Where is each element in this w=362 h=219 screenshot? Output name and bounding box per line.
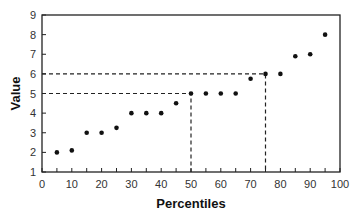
y-tick-label: 6 [30, 68, 36, 80]
data-point [159, 111, 164, 116]
data-point [323, 32, 328, 37]
data-point [70, 148, 75, 153]
data-point [263, 72, 268, 77]
y-tick-label: 9 [30, 9, 36, 21]
data-point [129, 111, 134, 116]
data-point [189, 91, 194, 96]
data-point [308, 52, 313, 57]
x-tick-label: 80 [274, 178, 286, 190]
x-tick-label: 0 [39, 178, 45, 190]
data-point [219, 91, 224, 96]
data-point [84, 130, 89, 135]
x-tick-label: 20 [95, 178, 107, 190]
data-point [204, 91, 209, 96]
x-tick-label: 100 [331, 178, 349, 190]
y-tick-label: 5 [30, 88, 36, 100]
x-tick-label: 40 [155, 178, 167, 190]
y-tick-label: 3 [30, 127, 36, 139]
data-point [233, 91, 238, 96]
data-point [174, 101, 179, 106]
y-tick-label: 2 [30, 146, 36, 158]
percentile-guide-line [42, 74, 266, 172]
x-tick-label: 70 [244, 178, 256, 190]
data-point [144, 111, 149, 116]
x-axis-title: Percentiles [156, 196, 225, 211]
x-tick-label: 30 [125, 178, 137, 190]
y-tick-label: 1 [30, 166, 36, 178]
data-point [278, 72, 283, 77]
x-tick-label: 60 [215, 178, 227, 190]
data-point [114, 126, 119, 131]
scatter-chart: 0102030405060708090100123456789Percentil… [0, 0, 362, 219]
y-tick-label: 4 [30, 107, 36, 119]
data-point [99, 130, 104, 135]
data-point [248, 76, 253, 81]
x-tick-label: 50 [185, 178, 197, 190]
x-tick-label: 10 [66, 178, 78, 190]
x-tick-label: 90 [304, 178, 316, 190]
y-axis-title: Value [8, 77, 23, 111]
plot-area: 0102030405060708090100123456789Percentil… [8, 9, 349, 211]
y-tick-label: 7 [30, 48, 36, 60]
percentile-guide-line [42, 94, 191, 173]
data-point [293, 54, 298, 59]
data-point [55, 150, 60, 155]
y-tick-label: 8 [30, 29, 36, 41]
